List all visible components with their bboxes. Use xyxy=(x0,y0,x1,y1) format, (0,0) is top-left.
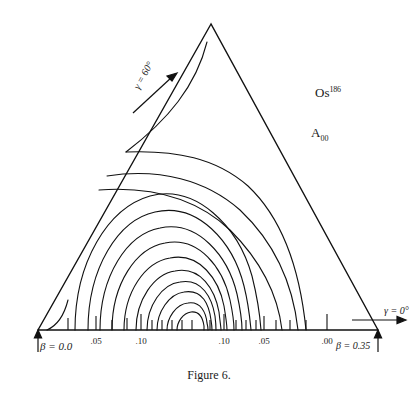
axis-tick-label: .05 xyxy=(258,336,269,346)
gamma-zero-label: γ = 0° xyxy=(384,306,409,316)
beta-max-label: β = 0.35 xyxy=(336,341,370,351)
contour-line xyxy=(112,242,234,330)
contour-plot-svg xyxy=(0,0,418,398)
contour-line xyxy=(126,42,207,152)
right-vertex-arrow-head xyxy=(374,330,381,338)
axis-tick-label: .10 xyxy=(218,336,229,346)
axis-tick-label: .00 xyxy=(321,336,332,346)
contour-line xyxy=(124,257,227,330)
isotope-symbol: Os xyxy=(315,85,329,100)
figure-container: Os186 A00 β = 0.0 β = 0.35 γ = 0° γ = 60… xyxy=(0,0,418,398)
axis-tick-label: .10 xyxy=(135,336,146,346)
figure-caption: Figure 6. xyxy=(0,368,418,383)
vertex-arrows xyxy=(34,73,406,352)
axis-ticks xyxy=(68,314,327,330)
left-vertex-arrow-head xyxy=(34,330,41,338)
contour-line xyxy=(136,270,221,330)
surface-symbol: A xyxy=(311,125,320,140)
surface-label: A00 xyxy=(311,126,328,143)
surface-subscript: 00 xyxy=(320,134,328,143)
isotope-label: Os186 xyxy=(315,86,341,99)
axis-tick-label: .05 xyxy=(90,336,101,346)
isotope-mass: 186 xyxy=(329,85,340,94)
contour-line-corner xyxy=(47,300,68,330)
beta-min-label: β = 0.0 xyxy=(40,341,72,352)
contour-line xyxy=(177,312,204,330)
contour-line xyxy=(167,303,208,330)
gamma0-arrow-head xyxy=(397,316,406,323)
